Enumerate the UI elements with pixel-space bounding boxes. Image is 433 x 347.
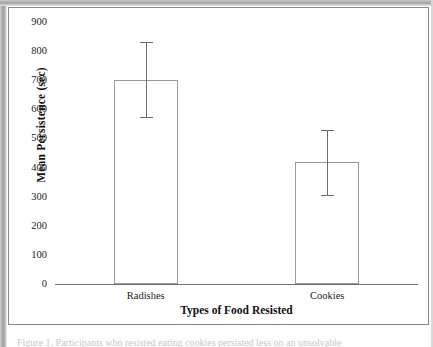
page-edge-left-shadow (0, 0, 7, 347)
scanned-figure-page: Mean Persistence (sec) 90080070060050040… (0, 0, 433, 347)
x-axis-line (55, 284, 418, 285)
page-edge-top-shadow (0, 0, 433, 6)
error-cap-upper-radishes (140, 42, 153, 43)
figure-caption-clipped: Figure 1. Participants who resisted eati… (17, 337, 417, 347)
error-cap-lower-radishes (140, 117, 153, 118)
y-axis-tick-400: 400 (13, 163, 47, 173)
error-cap-lower-cookies (321, 195, 334, 196)
y-axis-tick-700: 700 (13, 75, 47, 85)
x-category-radishes: Radishes (86, 290, 206, 301)
bar-chart: Mean Persistence (sec) 90080070060050040… (8, 7, 429, 325)
y-axis-tick-600: 600 (13, 104, 47, 114)
y-axis-tick-800: 800 (13, 46, 47, 56)
error-bar-cookies (327, 130, 328, 196)
y-axis-tick-300: 300 (13, 192, 47, 202)
error-bar-radishes (146, 42, 147, 116)
y-axis-tick-200: 200 (13, 221, 47, 231)
y-axis-tick-900: 900 (13, 17, 47, 27)
y-axis-tick-100: 100 (13, 250, 47, 260)
y-axis-title: Mean Persistence (sec) (35, 45, 47, 205)
error-cap-upper-cookies (321, 130, 334, 131)
x-axis-title: Types of Food Resisted (55, 304, 418, 316)
x-category-cookies: Cookies (267, 290, 387, 301)
y-axis-tick-500: 500 (13, 133, 47, 143)
y-axis-tick-0: 0 (13, 279, 47, 289)
